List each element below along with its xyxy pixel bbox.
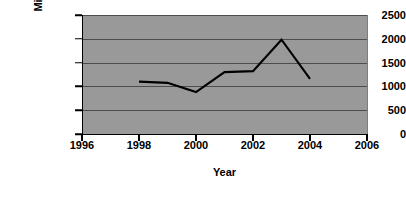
plot-area <box>82 15 368 135</box>
x-tick-mark <box>81 135 83 141</box>
y-tick-label: 2000 <box>334 33 406 45</box>
x-tick-mark <box>252 135 254 141</box>
y-tick-mark <box>75 14 82 16</box>
x-tick-mark <box>195 135 197 141</box>
y-tick-label: 1500 <box>334 57 406 69</box>
x-tick-mark <box>138 135 140 141</box>
y-tick-mark <box>75 62 82 64</box>
y-tick-mark <box>75 109 82 111</box>
gridline <box>83 86 368 87</box>
y-tick-label: 1000 <box>334 80 406 92</box>
x-tick-mark <box>309 135 311 141</box>
gridline <box>83 39 368 40</box>
y-tick-label: 500 <box>334 104 406 116</box>
x-axis-title: Year <box>82 166 367 178</box>
gridline <box>83 63 368 64</box>
x-tick-mark <box>366 135 368 141</box>
y-tick-mark <box>75 38 82 40</box>
y-axis-title-wrap: Million US$ <box>18 18 34 138</box>
line-chart: Million US$ 05001000150020002500 1996199… <box>0 0 406 200</box>
gridline <box>83 15 368 16</box>
y-tick-mark <box>75 86 82 88</box>
gridline <box>83 110 368 111</box>
y-tick-label: 2500 <box>334 9 406 21</box>
y-axis-title: Million US$ <box>31 0 45 38</box>
